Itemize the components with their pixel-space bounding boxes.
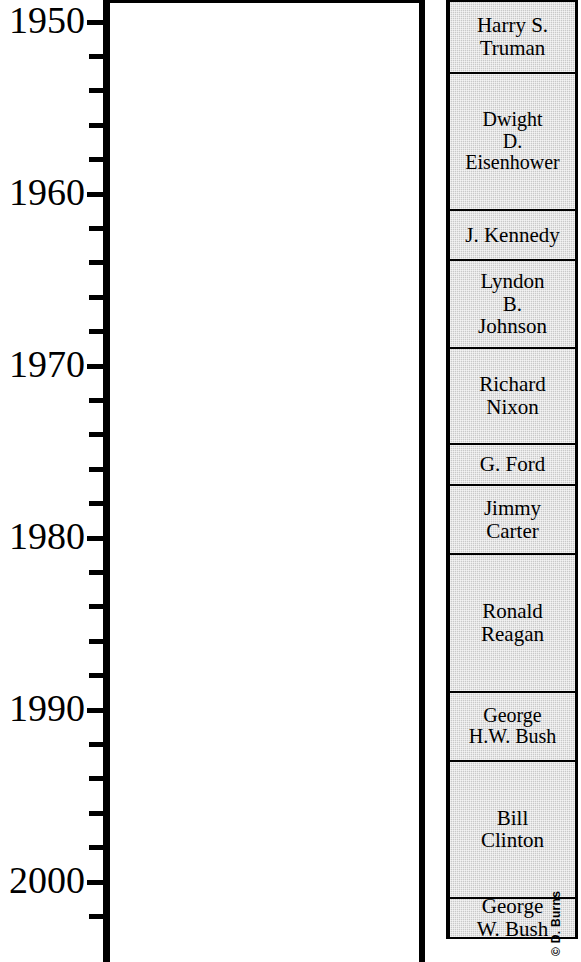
axis-tick-minor-1976 xyxy=(89,467,103,472)
axis-tick-minor-1966 xyxy=(89,295,103,300)
year-label-1980: 1980 xyxy=(9,517,85,555)
president-box-eisenhower: Dwight D. Eisenhower xyxy=(446,74,578,212)
credit-text: © D. Burns xyxy=(549,891,563,956)
axis-tick-minor-1972 xyxy=(89,398,103,403)
axis-tick-minor-1982 xyxy=(89,570,103,575)
president-box-ford: G. Ford xyxy=(446,445,578,486)
axis-tick-minor-2002 xyxy=(89,914,103,919)
presidents-column: Harry S. TrumanDwight D. EisenhowerJ. Ke… xyxy=(446,0,578,962)
president-label-johnson: Lyndon B. Johnson xyxy=(450,270,575,338)
axis-tick-major-1980 xyxy=(87,536,103,541)
president-label-reagan: Ronald Reagan xyxy=(450,600,575,645)
president-box-reagan: Ronald Reagan xyxy=(446,555,578,693)
axis-tick-minor-1988 xyxy=(89,673,103,678)
axis-tick-minor-1958 xyxy=(89,157,103,162)
year-label-1960: 1960 xyxy=(9,173,85,211)
president-label-carter: Jimmy Carter xyxy=(450,497,575,542)
president-box-ghw-bush: George H.W. Bush xyxy=(446,693,578,762)
axis-tick-minor-1998 xyxy=(89,845,103,850)
credit: © D. Burns xyxy=(563,796,581,956)
axis-tick-minor-1968 xyxy=(89,329,103,334)
axis-tick-minor-1956 xyxy=(89,123,103,128)
president-label-ford: G. Ford xyxy=(450,453,575,476)
axis-tick-minor-1992 xyxy=(89,742,103,747)
president-label-kennedy: J. Kennedy xyxy=(450,224,575,247)
axis-tick-major-1960 xyxy=(87,192,103,197)
axis-tick-major-1970 xyxy=(87,364,103,369)
timeline-chart: 195019601970198019902000 Harry S. Truman… xyxy=(0,0,581,962)
president-label-nixon: Richard Nixon xyxy=(450,373,575,418)
president-label-eisenhower: Dwight D. Eisenhower xyxy=(450,109,575,174)
year-label-2000: 2000 xyxy=(9,861,85,899)
axis-tick-minor-1952 xyxy=(89,54,103,59)
president-box-carter: Jimmy Carter xyxy=(446,486,578,555)
year-label-1970: 1970 xyxy=(9,345,85,383)
axis-tick-major-1950 xyxy=(87,20,103,25)
year-axis: 195019601970198019902000 xyxy=(0,0,112,962)
axis-tick-minor-1962 xyxy=(89,226,103,231)
president-box-johnson: Lyndon B. Johnson xyxy=(446,261,578,349)
president-label-truman: Harry S. Truman xyxy=(450,14,575,59)
axis-tick-minor-1994 xyxy=(89,776,103,781)
year-label-1950: 1950 xyxy=(9,1,85,39)
president-box-truman: Harry S. Truman xyxy=(446,0,578,74)
president-box-nixon: Richard Nixon xyxy=(446,349,578,445)
year-label-1990: 1990 xyxy=(9,689,85,727)
plot-area xyxy=(110,0,425,962)
axis-tick-minor-1974 xyxy=(89,432,103,437)
president-box-clinton: Bill Clinton xyxy=(446,762,578,900)
axis-tick-minor-1996 xyxy=(89,811,103,816)
president-box-kennedy: J. Kennedy xyxy=(446,211,578,261)
president-label-clinton: Bill Clinton xyxy=(450,807,575,852)
axis-tick-major-2000 xyxy=(87,880,103,885)
axis-spine xyxy=(103,0,110,962)
president-label-ghw-bush: George H.W. Bush xyxy=(450,705,575,748)
axis-tick-minor-1986 xyxy=(89,639,103,644)
axis-tick-minor-1984 xyxy=(89,604,103,609)
axis-tick-major-1990 xyxy=(87,708,103,713)
axis-tick-minor-1954 xyxy=(89,88,103,93)
axis-tick-minor-1964 xyxy=(89,260,103,265)
axis-tick-minor-1978 xyxy=(89,501,103,506)
